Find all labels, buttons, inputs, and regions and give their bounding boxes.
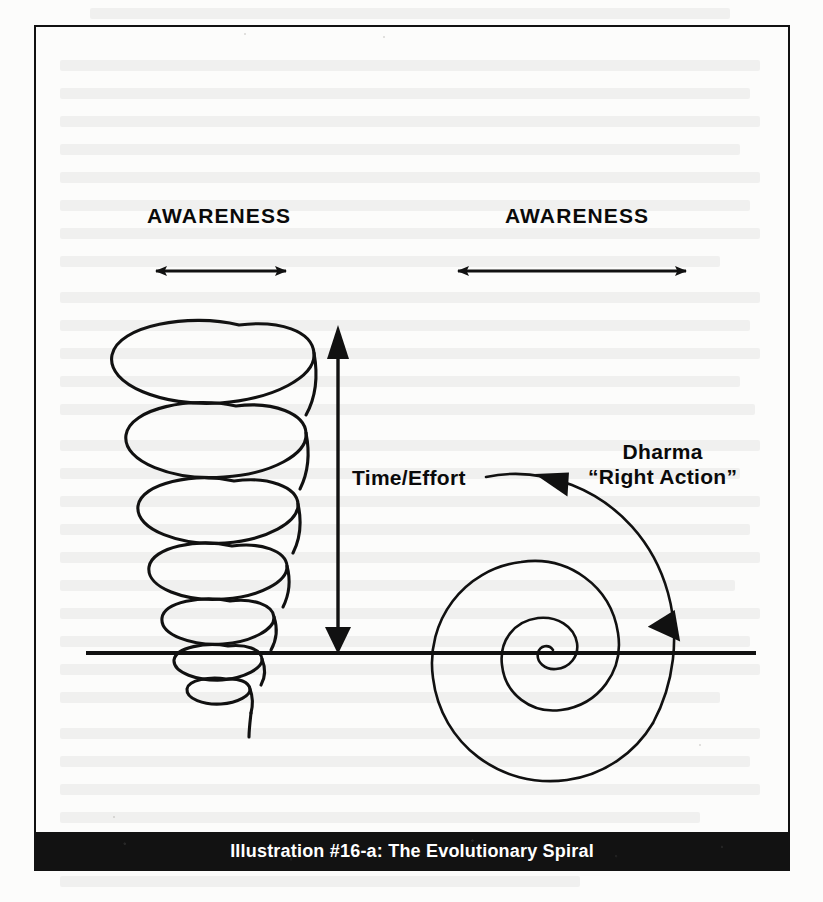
- dharma-arc-arrowhead-upper: [533, 469, 570, 497]
- conical-helix-left: [112, 320, 316, 737]
- dharma-label-line-1: Dharma: [623, 440, 703, 463]
- time-effort-label: Time/Effort: [352, 466, 466, 490]
- dharma-label-line-2: “Right Action”: [588, 465, 737, 489]
- awareness-label-left: AWARENESS: [147, 204, 291, 228]
- archimedean-spiral-right: [432, 474, 674, 781]
- time-effort-axis-arrow-down: [325, 627, 351, 654]
- illustration-caption-bar: Illustration #16-a: The Evolutionary Spi…: [34, 832, 790, 871]
- time-effort-axis-group: [325, 325, 351, 654]
- dharma-label: Dharma “Right Action”: [588, 440, 737, 488]
- time-effort-axis-arrow-up: [327, 325, 349, 359]
- awareness-label-right: AWARENESS: [505, 204, 649, 228]
- illustration-caption-text: Illustration #16-a: The Evolutionary Spi…: [230, 841, 594, 862]
